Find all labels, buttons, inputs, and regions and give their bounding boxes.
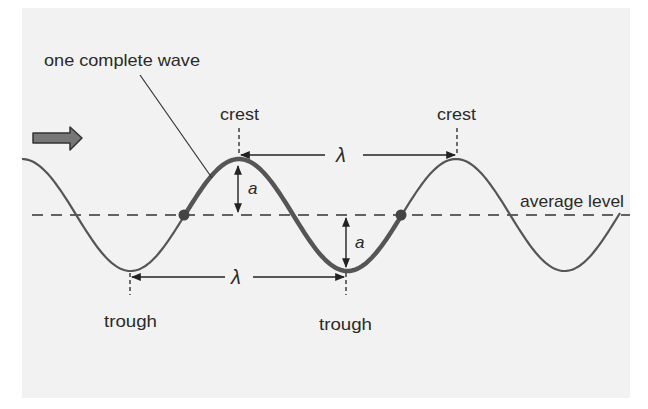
one-complete-wave-highlight	[184, 159, 400, 271]
average-level-label: average level	[520, 192, 624, 211]
one-complete-wave-label: one complete wave	[44, 51, 200, 70]
trough-label-2: trough	[319, 315, 372, 334]
direction-arrow-icon	[33, 127, 82, 150]
wave-diagram: one complete wave crest crest trough tro…	[0, 0, 648, 409]
amplitude-symbol-bottom: a	[355, 233, 364, 252]
crest-label-1: crest	[220, 105, 259, 124]
leader-line	[140, 75, 212, 178]
wave-start-dot	[179, 210, 190, 221]
trough-label-1: trough	[104, 312, 157, 331]
crest-label-2: crest	[437, 105, 476, 124]
wave-end-dot	[396, 210, 407, 221]
wavelength-symbol-bottom: λ	[230, 266, 241, 288]
wavelength-symbol-top: λ	[335, 144, 346, 166]
amplitude-symbol-top: a	[248, 179, 257, 198]
